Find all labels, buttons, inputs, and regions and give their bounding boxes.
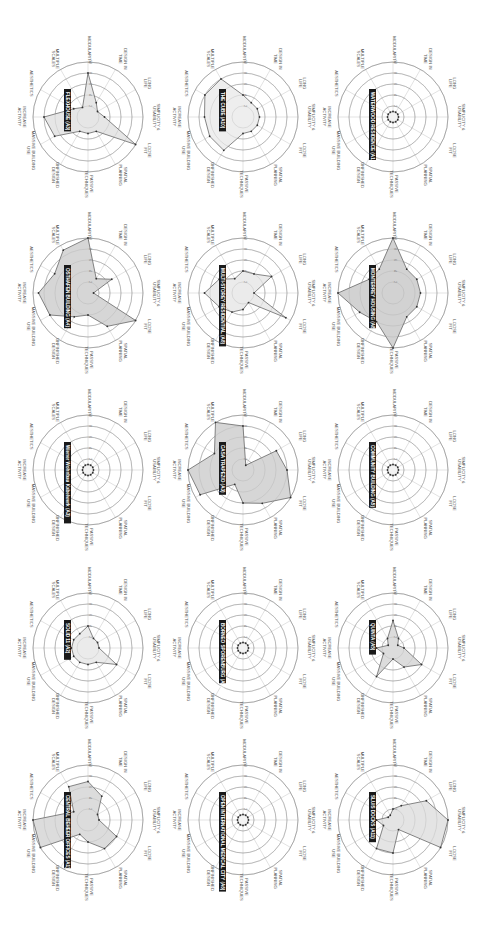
- tick-label: 6: [393, 83, 397, 85]
- data-point: [87, 464, 89, 466]
- tick-label: 8: [88, 603, 92, 605]
- tick-label: 2: [243, 281, 247, 283]
- data-polygon: [377, 801, 449, 853]
- data-point: [242, 133, 244, 135]
- svg-text:QUINTA (A5): QUINTA (A5): [370, 623, 375, 651]
- data-point: [234, 483, 236, 485]
- axis-label: SPATIALPLANNING: [118, 695, 128, 716]
- axis-label: LONGLIFE: [448, 609, 458, 621]
- tick-label: 8: [243, 248, 247, 250]
- data-point: [376, 676, 378, 678]
- axis-label: LONGLIFE: [298, 254, 308, 266]
- tick-label: 6: [243, 259, 247, 261]
- data-point: [397, 119, 399, 121]
- axis-label: LONGLIFE: [298, 431, 308, 443]
- chart-title: MONTERREY HOUSING (A8): [369, 265, 376, 331]
- data-point: [378, 268, 380, 270]
- tick-label: 2: [243, 105, 247, 107]
- data-point: [84, 474, 86, 476]
- data-point: [49, 314, 51, 316]
- data-point: [245, 824, 247, 826]
- axis-label: DESIGN INTIME: [273, 224, 283, 245]
- axis-label: UNFINISHEDDESIGN: [356, 515, 366, 541]
- axis-label: MULTIPLESCALES: [51, 402, 61, 422]
- axis-label: AESTHETICS: [29, 246, 34, 272]
- data-point: [82, 469, 84, 471]
- tick-label: 2: [393, 636, 397, 638]
- tick-label: 6: [243, 83, 247, 85]
- data-point: [73, 108, 75, 110]
- data-point: [93, 292, 95, 294]
- axis-label: AESTHETICS: [29, 70, 34, 96]
- data-point: [231, 311, 233, 313]
- data-point: [62, 249, 64, 251]
- axis-label: MASSIVE BUILDINGUSE: [26, 662, 36, 702]
- svg-text:OPEN INTERNATIONAL MEDICAL CIT: OPEN INTERNATIONAL MEDICAL CITY (A6): [220, 795, 225, 891]
- data-point: [285, 317, 287, 319]
- axis-label: DESIGN INTIME: [118, 579, 128, 600]
- data-point: [259, 116, 261, 118]
- data-point: [420, 292, 422, 294]
- tick-label: 6: [88, 614, 92, 616]
- chart-title: THE CUBE (A10): [219, 89, 226, 131]
- data-point: [383, 825, 385, 827]
- tick-label: 8: [243, 775, 247, 777]
- data-point: [256, 108, 258, 110]
- axis-label: SPATIALPLANNING: [118, 340, 128, 361]
- data-point: [82, 107, 84, 109]
- axis-label: SPATIALPLANNING: [273, 340, 283, 361]
- svg-text:CENTRAL BEHEER OFFICES (A1): CENTRAL BEHEER OFFICES (A1): [65, 795, 70, 869]
- axis-label: SPATIALPLANNING: [118, 164, 128, 185]
- data-point: [387, 644, 389, 646]
- axis-label: PASSIVETECHNIQUES: [84, 701, 94, 729]
- data-point: [199, 494, 201, 496]
- tick-label: 4: [393, 625, 397, 627]
- data-point: [248, 819, 250, 821]
- tick-label: 2: [393, 105, 397, 107]
- data-point: [97, 642, 99, 644]
- tick-label: 2: [393, 458, 397, 460]
- axis-label: AESTHETICS: [184, 423, 189, 449]
- tick-label: 8: [243, 72, 247, 74]
- axis-label: LOOSEFIT: [448, 496, 458, 511]
- axis-label: MODULARITY: [87, 567, 92, 595]
- data-point: [247, 816, 249, 818]
- axis-label: INCREASEACTIVITY: [172, 459, 182, 481]
- axis-spoke: [88, 443, 136, 471]
- axis-label: SPATIALPLANNING: [273, 867, 283, 888]
- data-point: [242, 653, 244, 655]
- tick-label: 2: [88, 636, 92, 638]
- radar-chart: 246810SIMPLICITY &USABILITYLOOSEFITSPATI…: [308, 735, 478, 905]
- axis-label: UNFINISHEDDESIGN: [206, 693, 216, 719]
- axis-label: DESIGN INTIME: [118, 401, 128, 422]
- axis-label: MULTIPLESCALES: [206, 402, 216, 422]
- data-point: [234, 278, 236, 280]
- axis-label: MULTIPLESCALES: [206, 225, 216, 245]
- axis-label: MULTIPLESCALES: [51, 752, 61, 772]
- radar-chart: 246810SIMPLICITY &USABILITYLOOSEFITSPATI…: [308, 563, 478, 733]
- axis-label: INCREASEACTIVITY: [322, 637, 332, 659]
- data-point: [383, 653, 385, 655]
- data-point: [214, 453, 216, 455]
- axis-label: DESIGN INTIME: [273, 48, 283, 69]
- tick-label: 8: [88, 775, 92, 777]
- data-point: [397, 113, 399, 115]
- data-point: [79, 130, 81, 132]
- axis-label: MULTIPLESCALES: [206, 580, 216, 600]
- data-point: [84, 464, 86, 466]
- axis-label: SPATIALPLANNING: [423, 517, 433, 538]
- axis-label: DESIGN INTIME: [423, 224, 433, 245]
- data-polygon: [33, 782, 117, 849]
- axis-label: AESTHETICS: [29, 773, 34, 799]
- data-point: [187, 469, 189, 471]
- svg-text:FLEXHOUSE (A3): FLEXHOUSE (A3): [65, 92, 70, 131]
- data-point: [387, 119, 389, 121]
- data-point: [387, 638, 389, 640]
- data-point: [387, 472, 389, 474]
- axis-label: AESTHETICS: [184, 246, 189, 272]
- axis-label: LOOSEFIT: [448, 846, 458, 861]
- chart-title: SOLID 11 (A2): [64, 620, 71, 660]
- tick-label: 4: [88, 94, 92, 96]
- axis-spoke: [88, 470, 116, 518]
- axis-label: UNFINISHEDDESIGN: [206, 162, 216, 188]
